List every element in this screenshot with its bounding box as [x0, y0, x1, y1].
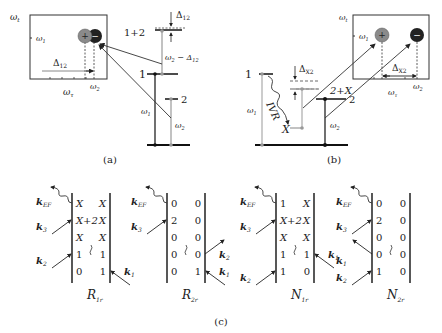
- svg-text:1: 1: [280, 198, 286, 209]
- svg-text:0: 0: [376, 249, 382, 260]
- svg-text:ω2: ω2: [330, 121, 340, 131]
- svg-text:kEF: kEF: [131, 196, 147, 208]
- svg-text:X+2: X+2: [279, 215, 302, 226]
- svg-text:ω2 − Δ12: ω2 − Δ12: [165, 53, 199, 63]
- svg-text:k1: k1: [336, 255, 347, 267]
- diagram-label: R2r: [181, 288, 199, 303]
- svg-text:X: X: [98, 232, 107, 243]
- svg-text:Δ12: Δ12: [176, 10, 190, 21]
- svg-text:2: 2: [171, 215, 177, 226]
- panel-a-inset-plot: ωt ω1 Δ12 − + ωτ ω2: [10, 12, 107, 98]
- svg-text:k2: k2: [240, 272, 251, 284]
- svg-text:k3: k3: [336, 221, 347, 233]
- delta-12-label: Δ12: [53, 58, 67, 69]
- svg-text:k3: k3: [36, 221, 47, 233]
- svg-text:X: X: [302, 215, 311, 226]
- svg-text:k3: k3: [131, 221, 142, 233]
- svg-text:IVR: IVR: [264, 99, 282, 122]
- svg-text:ω2: ω2: [175, 121, 185, 131]
- svg-text:ω2: ω2: [90, 82, 100, 92]
- svg-text:−: −: [91, 31, 99, 41]
- svg-text:0: 0: [400, 198, 406, 209]
- svg-text:X: X: [279, 232, 288, 243]
- svg-text:0: 0: [376, 232, 382, 243]
- feynman-diagram-n1r: 1XX+2XXX1110kEFk3k2k1N1r: [240, 187, 339, 303]
- svg-text:1: 1: [245, 68, 252, 81]
- svg-text:ω1: ω1: [36, 34, 46, 44]
- svg-text:0: 0: [171, 198, 177, 209]
- svg-text:1: 1: [139, 68, 146, 81]
- feynman-diagram-n2r: 0020000010kEFk3k1k2N2r: [336, 187, 410, 303]
- svg-text:2: 2: [376, 215, 382, 226]
- svg-text:1+2: 1+2: [124, 27, 145, 38]
- svg-text:X: X: [75, 232, 84, 243]
- panel-a: ωt ω1 Δ12 − + ωτ ω2: [10, 10, 199, 165]
- caption-a: (a): [103, 154, 117, 165]
- panel-b: ωt ω1 ΔX2 + − ωτ ω2: [245, 13, 429, 165]
- svg-text:+: +: [378, 30, 386, 40]
- svg-text:1: 1: [304, 249, 310, 260]
- svg-text:X: X: [302, 198, 311, 209]
- figure: ωt ω1 Δ12 − + ωτ ω2: [0, 0, 442, 333]
- svg-text:k1: k1: [124, 266, 135, 278]
- svg-text:0: 0: [376, 198, 382, 209]
- svg-text:k3: k3: [240, 221, 251, 233]
- svg-text:1: 1: [376, 266, 382, 277]
- svg-text:X: X: [75, 198, 84, 209]
- svg-text:0: 0: [171, 249, 177, 260]
- diagram-label: N2r: [386, 288, 405, 303]
- svg-text:1: 1: [76, 249, 82, 260]
- svg-text:k2: k2: [336, 272, 347, 284]
- svg-text:X: X: [98, 215, 107, 226]
- svg-text:0: 0: [171, 266, 177, 277]
- svg-text:−: −: [413, 30, 421, 40]
- panel-c: XXX+2XXX1101kEFk3k2k1R1r0020000001kEFk3k…: [36, 187, 410, 303]
- panel-a-energy-levels: Δ12 1+2 1 2 ω2 − Δ12 ω1 ω2: [99, 10, 199, 147]
- feynman-diagram-r2r: 0020000001kEFk3k2k1R2r: [131, 187, 230, 303]
- svg-text:0: 0: [195, 232, 201, 243]
- svg-text:0: 0: [76, 266, 82, 277]
- diagram-label: N1r: [290, 288, 309, 303]
- svg-text:k2: k2: [36, 255, 47, 267]
- svg-text:X: X: [302, 232, 311, 243]
- panel-b-inset-plot: ωt ω1 ΔX2 + − ωτ ω2: [339, 13, 429, 98]
- svg-text:1: 1: [280, 266, 286, 277]
- svg-text:1: 1: [195, 266, 201, 277]
- svg-text:0: 0: [400, 249, 406, 260]
- feynman-diagram-r1r: XXX+2XXX1101kEFk3k2k1R1r: [36, 187, 135, 303]
- caption-c: (c): [214, 316, 228, 327]
- svg-text:ω2: ω2: [413, 82, 423, 92]
- caption-b: (b): [327, 154, 341, 165]
- svg-text:0: 0: [400, 266, 406, 277]
- svg-text:1: 1: [100, 249, 106, 260]
- svg-text:1: 1: [100, 266, 106, 277]
- svg-text:ω1: ω1: [247, 106, 257, 116]
- svg-text:0: 0: [304, 266, 310, 277]
- svg-text:2+X: 2+X: [329, 85, 353, 96]
- svg-text:ω1: ω1: [141, 107, 151, 117]
- svg-text:0: 0: [195, 249, 201, 260]
- svg-text:ΔX2: ΔX2: [392, 63, 407, 74]
- diagram-label: R1r: [86, 288, 104, 303]
- svg-text:X: X: [281, 123, 291, 136]
- svg-text:ωτ: ωτ: [388, 88, 398, 98]
- svg-text:0: 0: [195, 215, 201, 226]
- svg-text:X+2: X+2: [75, 215, 98, 226]
- svg-text:0: 0: [171, 232, 177, 243]
- svg-text:kEF: kEF: [240, 196, 256, 208]
- svg-text:2: 2: [181, 94, 187, 105]
- svg-text:ωt: ωt: [339, 13, 349, 23]
- svg-text:ωt: ωt: [10, 12, 20, 23]
- svg-text:kEF: kEF: [336, 196, 352, 208]
- svg-text:+: +: [81, 31, 89, 41]
- svg-text:ωτ: ωτ: [63, 87, 74, 98]
- svg-text:0: 0: [400, 215, 406, 226]
- svg-text:0: 0: [400, 232, 406, 243]
- svg-text:0: 0: [195, 198, 201, 209]
- svg-text:k2: k2: [219, 249, 230, 261]
- svg-text:kEF: kEF: [36, 196, 52, 208]
- panel-b-energy-levels: ΔX2 IVR 1 X 2 2+X ω1 ω2: [245, 44, 410, 147]
- svg-text:ΔX2: ΔX2: [299, 64, 314, 75]
- svg-text:1: 1: [280, 249, 286, 260]
- svg-text:k1: k1: [219, 266, 230, 278]
